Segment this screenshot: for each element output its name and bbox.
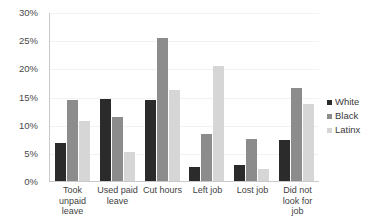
bar (258, 169, 269, 181)
x-category-label: Left job (185, 185, 230, 224)
x-category-label: Took unpaid leave (50, 185, 95, 224)
y-tick-label: 25% (19, 36, 38, 46)
bar-group (184, 13, 229, 181)
y-tick-label: 15% (19, 93, 38, 103)
y-tick-label: 0% (24, 177, 38, 187)
legend-label: Latinx (335, 125, 360, 135)
x-category-label: Cut hours (140, 185, 185, 224)
bar-groups (50, 13, 319, 181)
bar (189, 167, 200, 181)
bar (169, 90, 180, 181)
x-category-label: Lost job (230, 185, 275, 224)
bar (67, 100, 78, 181)
legend-label: Black (335, 111, 358, 121)
x-category-label: Used paid leave (95, 185, 140, 224)
bar-group (140, 13, 185, 181)
bar (55, 143, 66, 181)
bar (100, 99, 111, 181)
legend: WhiteBlackLatinx (327, 95, 370, 137)
bar (145, 100, 156, 181)
bar (213, 66, 224, 181)
legend-item: Latinx (327, 123, 370, 137)
y-tick-label: 10% (19, 121, 38, 131)
bar (112, 117, 123, 181)
bar (124, 152, 135, 181)
legend-swatch-icon (327, 100, 332, 105)
legend-swatch-icon (327, 128, 332, 133)
bar (79, 121, 90, 181)
bar-group (229, 13, 274, 181)
x-category-label: Did not look for job (275, 185, 320, 224)
y-tick-label: 30% (19, 8, 38, 18)
bar (279, 140, 290, 181)
bar-group (95, 13, 140, 181)
legend-label: White (335, 97, 359, 107)
x-axis-line (49, 181, 319, 182)
legend-item: White (327, 95, 370, 109)
legend-swatch-icon (327, 114, 332, 119)
bar (234, 165, 245, 181)
x-axis: Took unpaid leaveUsed paid leaveCut hour… (50, 185, 320, 224)
bar (157, 38, 168, 181)
bar (303, 104, 314, 181)
bar (201, 134, 212, 181)
bar-chart: 30%25%20%15%10%5%0% Took unpaid leaveUse… (0, 0, 370, 224)
y-tick-label: 20% (19, 65, 38, 75)
bar (246, 139, 257, 181)
legend-item: Black (327, 109, 370, 123)
y-tick-label: 5% (24, 149, 38, 159)
y-axis: 30%25%20%15%10%5%0% (0, 0, 44, 190)
bar-group (274, 13, 319, 181)
bar (291, 88, 302, 181)
bar-group (50, 13, 95, 181)
plot-area (49, 13, 319, 182)
